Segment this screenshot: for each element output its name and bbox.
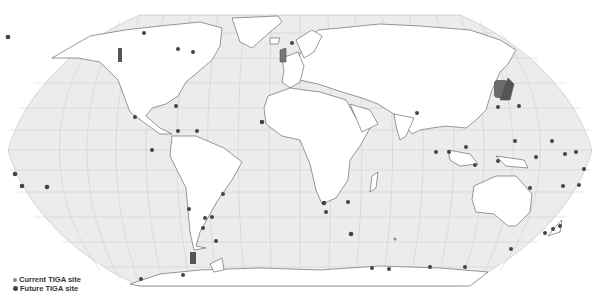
future-site-marker xyxy=(387,267,391,271)
future-site-marker xyxy=(214,239,218,243)
future-site-marker xyxy=(551,227,555,231)
future-site-marker xyxy=(133,115,137,119)
iceland xyxy=(270,38,280,44)
future-site-marker xyxy=(176,47,180,51)
legend-label-current: Current TIGA site xyxy=(19,275,81,284)
future-site-marker xyxy=(322,201,327,206)
future-site-marker xyxy=(517,104,521,108)
future-site-marker xyxy=(447,150,451,154)
future-site-marker xyxy=(464,145,468,149)
future-site-marker xyxy=(181,273,185,277)
future-site-marker xyxy=(582,167,586,171)
future-site-marker xyxy=(574,150,578,154)
future-site-marker xyxy=(45,185,50,190)
future-site-marker xyxy=(203,216,207,220)
future-site-marker xyxy=(346,200,350,204)
future-site-marker xyxy=(473,163,477,167)
legend-label-future: Future TIGA site xyxy=(20,284,78,293)
future-site-marker xyxy=(13,172,18,177)
future-site-marker xyxy=(428,265,432,269)
legend: Current TIGA site Future TIGA site xyxy=(13,275,81,293)
future-site-marker xyxy=(509,247,513,251)
future-site-marker xyxy=(550,139,554,143)
future-site-marker xyxy=(463,265,467,269)
future-site-marker xyxy=(260,120,265,125)
future-site-marker xyxy=(528,186,532,190)
future-site-marker xyxy=(496,159,500,163)
future-site-marker xyxy=(187,207,191,211)
future-site-marker xyxy=(290,41,294,45)
future-site-marker xyxy=(558,224,562,228)
current-site-marker-icon xyxy=(13,278,17,282)
future-site-marker xyxy=(210,215,214,219)
future-site-marker xyxy=(142,31,146,35)
future-site-marker xyxy=(150,148,154,152)
future-site-marker xyxy=(434,150,438,154)
future-site-marker xyxy=(543,231,547,235)
future-site-marker xyxy=(415,111,419,115)
future-site-marker xyxy=(563,152,567,156)
future-site-marker xyxy=(324,210,328,214)
future-site-marker xyxy=(191,50,195,54)
future-site-marker xyxy=(513,139,517,143)
future-site-marker xyxy=(577,183,581,187)
future-site-marker xyxy=(349,232,354,237)
future-site-marker xyxy=(176,129,180,133)
future-site-marker xyxy=(6,35,11,40)
future-site-marker xyxy=(534,155,538,159)
future-site-marker-icon xyxy=(13,286,18,291)
future-site-marker xyxy=(561,184,565,188)
future-site-marker xyxy=(496,105,500,109)
future-site-marker xyxy=(221,192,225,196)
future-site-marker xyxy=(139,277,143,281)
future-site-marker xyxy=(195,129,199,133)
legend-item-current: Current TIGA site xyxy=(13,275,81,284)
future-site-marker xyxy=(201,226,205,230)
legend-item-future: Future TIGA site xyxy=(13,284,81,293)
future-site-marker xyxy=(20,184,25,189)
world-map xyxy=(0,0,599,304)
future-site-marker xyxy=(370,266,374,270)
future-site-marker xyxy=(174,104,178,108)
current-site-marker xyxy=(394,238,397,241)
uk xyxy=(280,48,286,62)
